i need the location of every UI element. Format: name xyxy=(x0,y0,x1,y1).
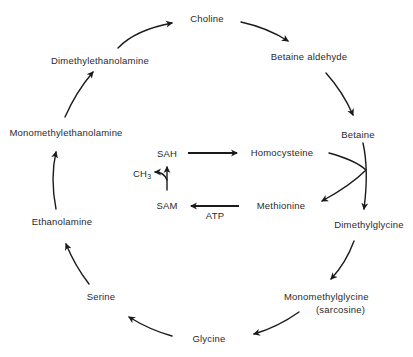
arrow-serine-to-ethanolamine xyxy=(66,244,89,284)
arrow-ethanolamine-to-mmea xyxy=(53,152,56,209)
arrow-dmg-to-mmg xyxy=(331,241,354,279)
node-serine: Serine xyxy=(87,291,116,302)
arrow-mmg-to-glycine xyxy=(254,312,299,334)
arrow-homocysteine-to-methionine xyxy=(322,153,366,201)
arrow-glycine-to-serine xyxy=(129,317,172,336)
ch3-main: CH xyxy=(133,168,147,179)
node-sah: SAH xyxy=(157,148,177,159)
arrow-choline-to-betaine-aldehyde xyxy=(241,22,288,41)
node-monomethylethanolamine: Monomethylethanolamine xyxy=(9,127,122,138)
node-betaine: Betaine xyxy=(341,129,375,140)
arrow-betaine-to-dmg xyxy=(363,143,366,209)
diagram-canvas: Choline Betaine aldehyde Betaine Dimethy… xyxy=(0,0,413,357)
node-homocysteine: Homocysteine xyxy=(251,147,314,158)
ch3-subscript: 3 xyxy=(147,173,151,180)
arrow-betaine-aldehyde-to-betaine xyxy=(326,73,353,115)
arrow-ch3-release xyxy=(155,172,167,180)
node-monomethylglycine-sublabel: (sarcosine) xyxy=(316,304,365,315)
cofactor-atp: ATP xyxy=(206,210,224,221)
node-ethanolamine: Ethanolamine xyxy=(32,216,93,227)
node-betaine-aldehyde: Betaine aldehyde xyxy=(271,51,348,62)
node-methionine: Methionine xyxy=(257,200,305,211)
arrow-mmea-to-dmea xyxy=(65,72,93,117)
node-glycine: Glycine xyxy=(192,333,225,344)
node-monomethylglycine: Monomethylglycine xyxy=(284,291,369,302)
node-dimethylglycine: Dimethylglycine xyxy=(334,219,404,230)
arrow-dmea-to-choline xyxy=(118,23,172,48)
node-choline: Choline xyxy=(190,13,224,24)
node-sam: SAM xyxy=(156,200,177,211)
cofactor-ch3: CH3 xyxy=(133,168,151,182)
node-dimethylethanolamine: Dimethylethanolamine xyxy=(51,55,149,66)
